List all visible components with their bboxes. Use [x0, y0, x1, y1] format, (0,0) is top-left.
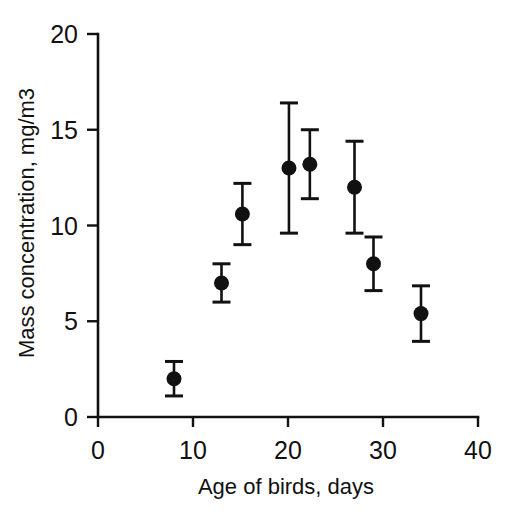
y-tick-label: 5	[64, 307, 78, 335]
y-tick-label: 0	[64, 403, 78, 431]
data-marker	[214, 275, 229, 290]
data-marker	[414, 306, 429, 321]
x-tick-label: 10	[179, 436, 207, 464]
data-point	[365, 237, 383, 291]
y-tick-label: 15	[50, 116, 78, 144]
data-marker	[235, 207, 250, 222]
y-tick-label: 10	[50, 212, 78, 240]
x-tick-label: 20	[274, 436, 302, 464]
data-point	[165, 361, 183, 395]
y-axis-title: Mass concentration, mg/m3	[14, 88, 39, 358]
x-tick-label: 30	[369, 436, 397, 464]
y-tick-label: 20	[50, 20, 78, 48]
scatter-plot-canvas: 01020304005101520 Age of birds, days Mas…	[0, 0, 514, 523]
x-tick-label: 0	[91, 436, 105, 464]
data-point	[280, 103, 298, 233]
data-marker	[302, 157, 317, 172]
data-points-with-error-bars	[165, 103, 430, 396]
data-point	[346, 141, 364, 233]
axis-tick-labels: 01020304005101520	[50, 20, 492, 464]
data-point	[213, 264, 231, 302]
data-marker	[347, 180, 362, 195]
data-marker	[281, 161, 296, 176]
data-point	[301, 130, 319, 199]
data-marker	[167, 371, 182, 386]
x-tick-label: 40	[464, 436, 492, 464]
data-marker	[366, 256, 381, 271]
data-point	[233, 183, 251, 244]
x-axis-title: Age of birds, days	[198, 474, 374, 499]
axis-ticks	[87, 34, 478, 427]
chart-figure: 01020304005101520 Age of birds, days Mas…	[0, 0, 514, 523]
data-point	[412, 286, 430, 342]
